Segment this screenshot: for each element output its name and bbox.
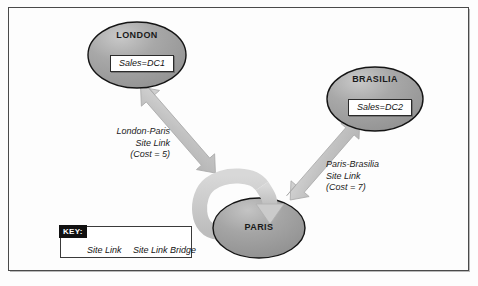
edge-london-paris-label: London-Paris Site Link (Cost = 5)	[48, 126, 170, 161]
legend-caption-site-link-bridge: Site Link Bridge	[133, 245, 196, 255]
edge-paris-brasilia-line3: (Cost = 7)	[326, 182, 448, 194]
diagram-figure: LONDON Sales=DC1 BRASILIA Sales=DC2 PARI…	[0, 0, 478, 286]
edge-london-paris-line1: London-Paris	[48, 126, 170, 138]
edge-london-paris-line3: (Cost = 5)	[48, 149, 170, 161]
legend-caption-site-link: Site Link	[87, 245, 122, 255]
node-london-server-box: Sales=DC1	[110, 55, 174, 72]
node-brasilia-title: BRASILIA	[341, 74, 409, 84]
edge-london-paris-line2: Site Link	[48, 138, 170, 150]
edge-paris-brasilia-line1: Paris-Brasilia	[326, 159, 448, 171]
edge-paris-brasilia-line2: Site Link	[326, 171, 448, 183]
legend-key-label: KEY:	[59, 225, 87, 238]
edge-paris-brasilia-label: Paris-Brasilia Site Link (Cost = 7)	[326, 159, 448, 194]
node-london-title: LONDON	[105, 30, 169, 40]
node-paris-title: PARIS	[229, 222, 289, 232]
node-brasilia-server-box: Sales=DC2	[348, 99, 412, 116]
